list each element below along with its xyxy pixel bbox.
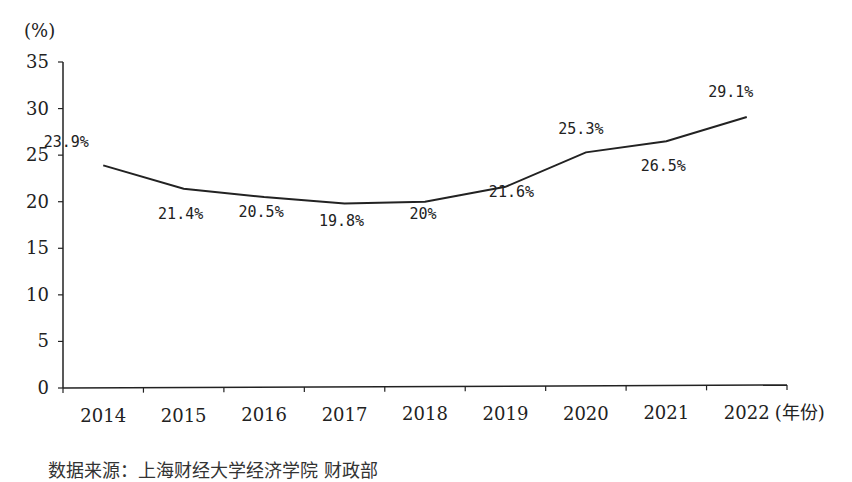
data-label: 21.4% — [158, 205, 203, 223]
x-tick-label: 2021 — [643, 402, 689, 423]
data-label: 20% — [409, 205, 436, 223]
y-tick-label: 15 — [26, 237, 49, 258]
y-axis: (%)05101520253035 — [24, 20, 63, 398]
data-label: 25.3% — [558, 120, 603, 138]
x-tick-label: 2019 — [483, 403, 529, 424]
x-tick-label: 2020 — [563, 403, 609, 424]
x-tick-label: 2017 — [322, 404, 368, 425]
y-tick-label: 5 — [38, 330, 49, 351]
y-tick-label: 0 — [38, 377, 49, 398]
y-tick-label: 35 — [26, 51, 49, 72]
line-chart: (%)05101520253035 2014201520162017201820… — [0, 0, 852, 460]
y-tick-label: 10 — [26, 284, 49, 305]
plot-area: 23.9%21.4%20.5%19.8%20%21.6%25.3%26.5%29… — [44, 83, 754, 230]
data-label: 20.5% — [239, 203, 284, 221]
x-tick-label: 2022 — [724, 402, 770, 423]
data-label: 21.6% — [489, 183, 534, 201]
y-tick-label: 30 — [26, 98, 49, 119]
x-tick-label: 2014 — [80, 405, 126, 426]
x-axis: 201420152016201720182019202020212022(年份) — [63, 385, 825, 426]
x-tick-label: 2015 — [161, 405, 207, 426]
x-axis-label: (年份) — [775, 402, 825, 423]
data-label: 23.9% — [44, 133, 89, 151]
source-caption: 数据来源：上海财经大学经济学院 财政部 — [48, 456, 378, 482]
y-tick-label: 20 — [26, 191, 49, 212]
data-label: 19.8% — [319, 212, 364, 230]
data-label: 26.5% — [641, 157, 686, 175]
x-tick-label: 2018 — [402, 403, 448, 424]
y-axis-label: (%) — [24, 20, 55, 41]
x-tick-label: 2016 — [241, 404, 287, 425]
data-label: 29.1% — [708, 83, 753, 101]
